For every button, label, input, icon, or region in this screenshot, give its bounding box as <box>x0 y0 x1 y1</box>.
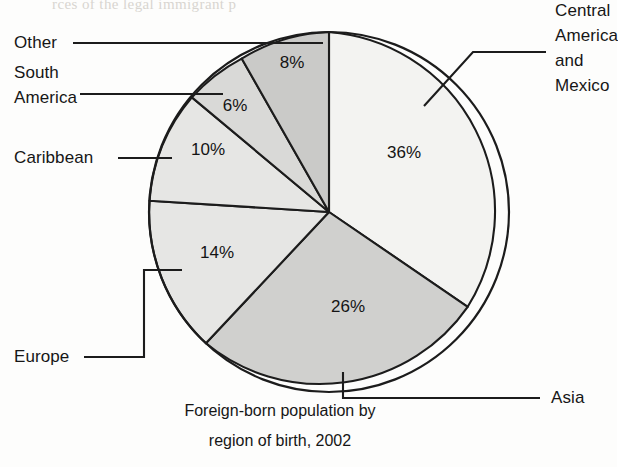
callout-label-central-line1: Central <box>555 0 618 23</box>
callout-label-caribbean: Caribbean <box>14 145 93 170</box>
callout-label-south-america-line2: America <box>14 85 77 110</box>
callout-label-europe: Europe <box>14 344 69 369</box>
callout-label-south-america-line1: South <box>14 60 77 85</box>
callout-label-central-line2: America <box>555 23 618 48</box>
slice-value-other: 8% <box>280 53 305 72</box>
callout-label-other: Other <box>14 30 57 55</box>
slice-value-central-america-and-mexico: 36% <box>387 143 421 162</box>
callout-label-central-america-and-mexico: Central America and Mexico <box>555 0 618 98</box>
slice-value-south-america: 6% <box>223 96 248 115</box>
slice-value-asia: 26% <box>331 297 365 316</box>
callout-label-central-line4: Mexico <box>555 73 618 98</box>
slice-value-caribbean: 10% <box>191 140 225 159</box>
figure-caption-line2: region of birth, 2002 <box>0 426 560 456</box>
figure-caption-line1: Foreign-born population by <box>0 396 560 426</box>
figure-caption: Foreign-born population by region of bir… <box>0 396 560 456</box>
slice-value-europe: 14% <box>200 243 234 262</box>
callout-label-south-america: South America <box>14 60 77 110</box>
callout-label-central-line3: and <box>555 48 618 73</box>
